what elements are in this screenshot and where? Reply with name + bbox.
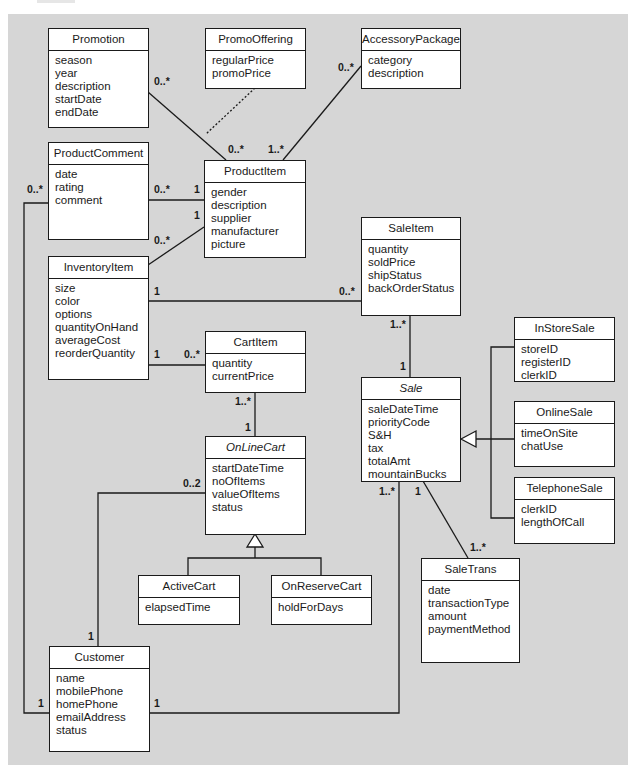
attribute: S&H [368, 429, 460, 442]
class-cartitem[interactable]: CartItem quantity currentPrice [205, 331, 306, 393]
class-promooffering[interactable]: PromoOffering regularPrice promoPrice [205, 28, 306, 89]
class-attributes: elapsedTime [139, 598, 239, 614]
attribute: description [368, 67, 460, 80]
class-name: ProductComment [49, 143, 148, 165]
attribute: clerkID [521, 503, 614, 516]
class-attributes: storeID registerID clerkID [515, 340, 614, 382]
class-name: InventoryItem [49, 257, 148, 279]
assoc-class-link [206, 88, 255, 134]
attribute: reorderQuantity [55, 347, 148, 360]
attribute: status [56, 724, 149, 737]
attribute: description [55, 80, 148, 93]
assoc-sale-saletrans [423, 481, 468, 558]
multiplicity-label: 1 [154, 285, 160, 297]
generalization-arrow-sale [461, 431, 476, 447]
class-name: Sale [362, 378, 460, 400]
class-onlinecart[interactable]: OnLineCart startDateTime noOfItems value… [205, 436, 306, 535]
class-customer[interactable]: Customer name mobilePhone homePhone emai… [49, 646, 150, 752]
class-sale[interactable]: Sale saleDateTime priorityCode S&H tax t… [361, 377, 461, 482]
multiplicity-label: 1 [245, 421, 251, 433]
multiplicity-label: 0..2 [183, 477, 201, 489]
attribute: backOrderStatus [368, 282, 460, 295]
attribute: elapsedTime [145, 601, 239, 614]
class-telephonesale[interactable]: TelephoneSale clerkID lengthOfCall [514, 477, 615, 544]
class-saletrans[interactable]: SaleTrans date transactionType amount pa… [421, 558, 520, 663]
assoc-inventory-productitem [148, 227, 204, 265]
multiplicity-label: 1..* [268, 143, 284, 155]
assoc-comment-customer [24, 203, 49, 713]
class-name: SaleItem [362, 218, 460, 240]
attribute: comment [55, 194, 148, 207]
attribute: startDateTime [212, 462, 305, 475]
class-productitem[interactable]: ProductItem gender description supplier … [204, 160, 306, 258]
class-productcomment[interactable]: ProductComment date rating comment [48, 142, 149, 240]
class-attributes: regularPrice promoPrice [206, 51, 305, 80]
class-attributes: startDateTime noOfItems valueOfItems sta… [206, 459, 305, 514]
class-attributes: quantity soldPrice shipStatus backOrderS… [362, 240, 460, 295]
class-attributes: quantity currentPrice [206, 354, 305, 383]
multiplicity-label: 0..* [154, 234, 170, 246]
attribute: category [368, 54, 460, 67]
multiplicity-label: 0..* [27, 183, 43, 195]
attribute: promoPrice [212, 67, 305, 80]
multiplicity-label: 0..* [184, 348, 200, 360]
class-name: TelephoneSale [515, 478, 614, 500]
multiplicity-label: 0..* [154, 75, 170, 87]
class-attributes: gender description supplier manufacturer… [205, 183, 305, 251]
multiplicity-label: 0..* [154, 183, 170, 195]
attribute: saleDateTime [368, 403, 460, 416]
class-accessorypackage[interactable]: AccessoryPackage category description [361, 28, 461, 89]
attribute: gender [211, 186, 305, 199]
class-name: ActiveCart [139, 576, 239, 598]
attribute: emailAddress [56, 711, 149, 724]
attribute: currentPrice [212, 370, 305, 383]
class-instoresale[interactable]: InStoreSale storeID registerID clerkID [514, 317, 615, 382]
multiplicity-label: 1 [415, 485, 421, 497]
attribute: date [55, 168, 148, 181]
class-attributes: holdForDays [272, 598, 371, 614]
attribute: noOfItems [212, 475, 305, 488]
class-promotion[interactable]: Promotion season year description startD… [48, 28, 149, 128]
attribute: manufacturer [211, 225, 305, 238]
attribute: holdForDays [278, 601, 371, 614]
attribute: year [55, 67, 148, 80]
attribute: season [55, 54, 148, 67]
class-saleitem[interactable]: SaleItem quantity soldPrice shipStatus b… [361, 217, 461, 316]
attribute: priorityCode [368, 416, 460, 429]
class-name: OnlineSale [515, 402, 614, 424]
multiplicity-label: 1..* [235, 395, 251, 407]
class-onlinesale[interactable]: OnlineSale timeOnSite chatUse [514, 401, 615, 467]
attribute: date [428, 584, 519, 597]
attribute: size [55, 282, 148, 295]
class-name: CartItem [206, 332, 305, 354]
class-onreservecart[interactable]: OnReserveCart holdForDays [271, 575, 372, 625]
class-name: AccessoryPackage [362, 29, 460, 51]
attribute: picture [211, 238, 305, 251]
multiplicity-label: 1 [194, 183, 200, 195]
class-activecart[interactable]: ActiveCart elapsedTime [138, 575, 240, 625]
attribute: name [56, 672, 149, 685]
class-attributes: saleDateTime priorityCode S&H tax totalA… [362, 400, 460, 481]
class-attributes: category description [362, 51, 460, 80]
class-attributes: season year description startDate endDat… [49, 51, 148, 119]
class-name: Customer [50, 647, 149, 669]
multiplicity-label: 1 [194, 209, 200, 221]
class-attributes: clerkID lengthOfCall [515, 500, 614, 529]
attribute: mobilePhone [56, 685, 149, 698]
attribute: options [55, 308, 148, 321]
multiplicity-label: 0..* [338, 61, 354, 73]
attribute: amount [428, 610, 519, 623]
class-attributes: size color options quantityOnHand averag… [49, 279, 148, 360]
class-attributes: date rating comment [49, 165, 148, 207]
attribute: soldPrice [368, 256, 460, 269]
class-name: PromoOffering [206, 29, 305, 51]
class-inventoryitem[interactable]: InventoryItem size color options quantit… [48, 256, 149, 380]
multiplicity-label: 1 [400, 360, 406, 372]
attribute: description [211, 199, 305, 212]
attribute: chatUse [521, 440, 614, 453]
attribute: quantityOnHand [55, 321, 148, 334]
attribute: regularPrice [212, 54, 305, 67]
multiplicity-label: 1 [154, 697, 160, 709]
attribute: timeOnSite [521, 427, 614, 440]
multiplicity-label: 1..* [379, 485, 395, 497]
